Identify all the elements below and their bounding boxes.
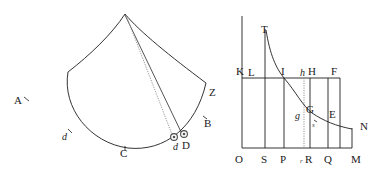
label-C: C: [120, 147, 127, 159]
dotted-chord-apex-to-d: [126, 15, 173, 137]
diagram-svg: A d C d D B Z O S P r R Q M T: [0, 0, 382, 170]
point-marker-D: [181, 131, 188, 138]
point-marker-d: [171, 134, 178, 141]
label-I: I: [281, 65, 285, 77]
label-L: L: [248, 66, 255, 78]
sector-left-side: [68, 14, 125, 72]
tick-mark-d: [68, 129, 72, 133]
label-B: B: [204, 117, 211, 129]
label-N: N: [360, 120, 368, 132]
label-d-point: d: [173, 141, 179, 152]
label-Q: Q: [324, 153, 332, 165]
sector-right-side: [125, 14, 206, 83]
label-F: F: [331, 65, 337, 77]
label-H: H: [308, 65, 316, 77]
label-d-arc: d: [62, 131, 68, 142]
label-D: D: [182, 139, 190, 151]
left-sector-figure: A d C d D B Z: [14, 14, 216, 159]
label-Z: Z: [209, 86, 216, 98]
label-G: G: [306, 103, 314, 115]
label-K: K: [236, 65, 244, 77]
label-r: r: [300, 157, 303, 165]
label-g: g: [295, 110, 300, 121]
figure-container: A d C d D B Z O S P r R Q M T: [0, 0, 382, 170]
label-A: A: [14, 94, 22, 106]
right-hyperbola-figure: O S P r R Q M T K L I h H F g G s E N: [235, 16, 368, 165]
label-R: R: [305, 153, 313, 165]
label-s: s: [312, 121, 315, 129]
label-S: S: [261, 153, 267, 165]
label-T: T: [261, 23, 268, 35]
tick-mark-A: [24, 97, 29, 101]
label-M: M: [351, 153, 361, 165]
chord-apex-to-D: [125, 15, 183, 136]
label-O: O: [235, 153, 243, 165]
label-E: E: [329, 108, 336, 120]
label-h: h: [300, 67, 305, 78]
label-P: P: [280, 153, 286, 165]
